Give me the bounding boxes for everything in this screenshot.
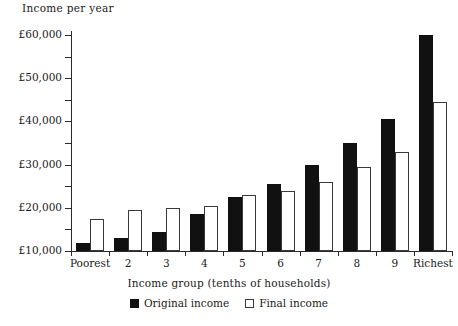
- legend-item-original: Original income: [130, 297, 229, 309]
- x-tick-mark: [414, 251, 415, 256]
- x-tick-label: 8: [353, 257, 360, 269]
- y-tick-label: £50,000: [0, 71, 62, 83]
- legend-swatch-final-icon: [245, 299, 254, 308]
- bar-final: [319, 182, 333, 251]
- x-tick-label: 3: [163, 257, 170, 269]
- bar-final: [433, 102, 447, 251]
- bar-original: [381, 119, 395, 251]
- y-tick-mark: [65, 229, 72, 230]
- chart-legend: Original income Final income: [0, 297, 458, 309]
- bar-original: [305, 165, 319, 251]
- bar-final: [395, 152, 409, 251]
- legend-swatch-original-icon: [130, 299, 139, 308]
- x-tick-label: Richest: [413, 257, 453, 269]
- x-tick-label: 9: [392, 257, 399, 269]
- bar-original: [76, 243, 90, 251]
- x-tick-label: 7: [315, 257, 322, 269]
- bar-final: [242, 195, 256, 251]
- x-tick-label: 2: [125, 257, 132, 269]
- y-tick-mark: [65, 100, 72, 101]
- bar-final: [204, 206, 218, 251]
- bar-final: [128, 210, 142, 251]
- bar-original: [228, 197, 242, 251]
- bar-original: [190, 214, 204, 251]
- y-tick-mark: [65, 186, 72, 187]
- x-tick-mark: [376, 251, 377, 256]
- legend-item-final: Final income: [245, 297, 328, 309]
- legend-label-final: Final income: [259, 297, 328, 309]
- bar-original: [267, 184, 281, 251]
- x-tick-mark: [452, 251, 453, 256]
- y-tick-mark: [65, 121, 72, 122]
- x-tick-mark: [223, 251, 224, 256]
- bar-original: [114, 238, 128, 251]
- y-tick-label: £60,000: [0, 28, 62, 40]
- y-tick-label: £10,000: [0, 244, 62, 256]
- x-tick-mark: [262, 251, 263, 256]
- x-tick-label: 4: [201, 257, 208, 269]
- income-bar-chart: Income per year £10,000£20,000£30,000£40…: [0, 0, 458, 326]
- x-tick-mark: [109, 251, 110, 256]
- bar-original: [343, 143, 357, 251]
- x-tick-mark: [185, 251, 186, 256]
- x-tick-mark: [71, 251, 72, 256]
- y-tick-mark: [65, 165, 72, 166]
- x-tick-mark: [147, 251, 148, 256]
- x-tick-label: 5: [239, 257, 246, 269]
- y-tick-mark: [65, 143, 72, 144]
- bar-final: [90, 219, 104, 251]
- y-tick-mark: [65, 208, 72, 209]
- bar-final: [166, 208, 180, 251]
- x-axis-title: Income group (tenths of households): [0, 277, 458, 289]
- legend-label-original: Original income: [144, 297, 229, 309]
- y-tick-label: £20,000: [0, 201, 62, 213]
- y-axis-line: [71, 31, 72, 252]
- x-tick-label: Poorest: [70, 257, 110, 269]
- x-tick-label: 6: [277, 257, 284, 269]
- y-tick-mark: [65, 57, 72, 58]
- x-tick-mark: [338, 251, 339, 256]
- bar-original: [419, 35, 433, 251]
- bar-final: [357, 167, 371, 251]
- y-tick-mark: [65, 35, 72, 36]
- y-tick-label: £40,000: [0, 114, 62, 126]
- bar-final: [281, 191, 295, 251]
- x-tick-mark: [300, 251, 301, 256]
- y-tick-mark: [65, 78, 72, 79]
- bar-original: [152, 232, 166, 251]
- y-tick-label: £30,000: [0, 158, 62, 170]
- y-axis-title: Income per year: [22, 2, 114, 14]
